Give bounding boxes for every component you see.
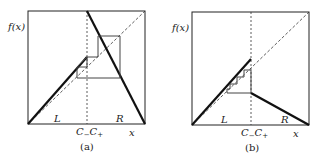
panel-b-y-axis-label: f(x) <box>172 23 189 33</box>
panel-a-cobweb <box>77 36 120 78</box>
panel-a-caption: (a) <box>80 142 94 152</box>
panel-a-right-branch <box>87 11 145 124</box>
panel-b-right-branch <box>251 93 309 125</box>
panel-a-plot <box>28 11 145 124</box>
panel-a-c-minus: C <box>76 126 84 137</box>
panel-a-x-axis-label: x <box>129 128 135 138</box>
panel-a-y-axis-label: f(x) <box>8 22 25 32</box>
panel-b-c-minus: C <box>241 127 249 138</box>
panel-a-c-plus-sub: + <box>97 131 103 139</box>
panel-b-region-right-label: R <box>281 115 289 125</box>
panel-b-region-left-label: L <box>221 115 228 125</box>
diagram-canvas <box>0 0 316 162</box>
panel-b-identity-diagonal <box>192 12 309 125</box>
panel-a-region-left-label: L <box>54 114 61 124</box>
panel-b-plot <box>192 12 309 125</box>
panel-a-boundary-labels: C−C+ <box>76 127 103 139</box>
panel-a-region-right-label: R <box>116 114 124 124</box>
panel-b-caption: (b) <box>245 143 259 153</box>
panel-b-c-plus-sub: + <box>262 132 268 140</box>
panel-b-x-axis-label: x <box>293 129 299 139</box>
panel-b-boundary-labels: C−C+ <box>241 128 268 140</box>
